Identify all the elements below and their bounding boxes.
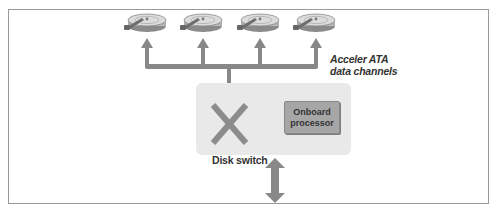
disk-icon-3	[237, 14, 279, 32]
disk-icon-2	[180, 14, 222, 32]
host-bidirectional-arrow	[265, 158, 285, 203]
data-channels-label-line1: Acceler ATA	[330, 53, 397, 65]
disk-icon-4	[293, 14, 335, 32]
processor-label-line1: Onboard	[293, 107, 331, 118]
disk-icon-1	[124, 14, 166, 32]
data-channels-label-line2: data channels	[330, 65, 397, 77]
processor-label-line2: processor	[290, 118, 334, 129]
diagram-canvas	[0, 0, 497, 216]
disk-switch-label: Disk switch	[212, 154, 268, 166]
data-channels-label: Acceler ATA data channels	[330, 53, 397, 77]
onboard-processor-box: Onboard processor	[284, 101, 340, 134]
